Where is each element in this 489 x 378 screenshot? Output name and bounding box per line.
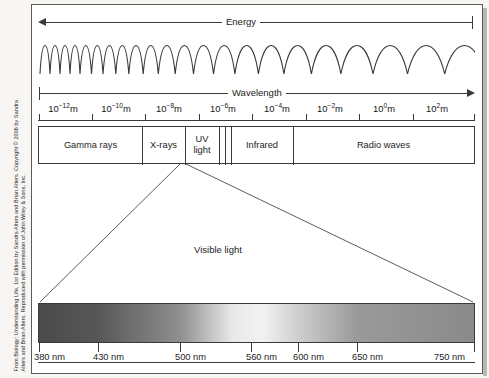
credit-line-1: From Biology: Understanding Life, 1st Ed… xyxy=(13,5,20,371)
band-tick-5 xyxy=(306,114,307,121)
band-divider-1 xyxy=(185,127,186,165)
nm-label-4: 600 nm xyxy=(293,352,324,362)
exponent-3: −6 xyxy=(221,102,229,109)
band-uv-light[interactable]: UVlight xyxy=(185,127,219,163)
wavelength-tick-label-1: 10−10m xyxy=(101,103,130,114)
exponent-2: −8 xyxy=(167,102,175,109)
wavelength-axis-start-cap xyxy=(39,87,40,100)
exponent-1: −10 xyxy=(112,102,123,109)
nm-label-6: 750 nm xyxy=(434,352,465,362)
band-tick-4 xyxy=(252,114,253,121)
wavelength-axis-label: Wavelength xyxy=(228,87,286,98)
exponent-5: −2 xyxy=(328,102,336,109)
exponent-4: −4 xyxy=(275,102,283,109)
band-x-rays[interactable]: X-rays xyxy=(142,127,185,163)
band-tick-8 xyxy=(474,114,475,121)
band-infrared[interactable]: Infrared xyxy=(231,127,293,163)
energy-arrow-left-icon xyxy=(38,18,46,26)
figure-credit: From Biology: Understanding Life, 1st Ed… xyxy=(13,5,28,371)
wavelength-tick-label-6: 100m xyxy=(373,103,395,114)
visible-spectrum-bar[interactable] xyxy=(38,303,475,343)
wavelength-tick-label-7: 102m xyxy=(426,103,448,114)
spectrum-band-row: Gamma rays X-rays UVlight Infrared Radio… xyxy=(38,126,475,164)
nm-label-5: 650 nm xyxy=(352,352,383,362)
nm-tick-1 xyxy=(98,343,99,352)
credit-line-2: Alters and Brian Alters. Reproduced with… xyxy=(20,5,27,371)
electromagnetic-spectrum-figure: From Biology: Understanding Life, 1st Ed… xyxy=(0,0,489,378)
nm-label-3: 560 nm xyxy=(246,352,277,362)
band-divider-4 xyxy=(231,127,232,165)
nm-tick-5 xyxy=(357,343,358,352)
band-tick-baseline xyxy=(38,120,475,121)
nm-tick-0 xyxy=(39,343,40,352)
nm-tick-3 xyxy=(251,343,252,352)
spectrum-gradient xyxy=(39,304,474,342)
band-divider-2 xyxy=(219,127,220,165)
wavelength-tick-label-5: 10−2m xyxy=(317,103,343,114)
band-divider-3 xyxy=(225,127,226,165)
wavelength-tick-label-4: 10−4m xyxy=(264,103,290,114)
wavelength-tick-label-2: 10−8m xyxy=(156,103,182,114)
band-tick-2 xyxy=(145,114,146,121)
band-divider-5 xyxy=(293,127,294,165)
wavelength-tick-label-0: 10−12m xyxy=(48,103,77,114)
nm-axis-line xyxy=(38,362,475,363)
exponent-7: 2 xyxy=(436,102,440,109)
band-tick-6 xyxy=(359,114,360,121)
energy-axis-end-cap xyxy=(472,16,473,29)
band-tick-7 xyxy=(413,114,414,121)
nm-label-1: 430 nm xyxy=(93,352,124,362)
nm-tick-2 xyxy=(180,343,181,352)
energy-axis-label: Energy xyxy=(222,16,260,27)
band-tick-1 xyxy=(92,114,93,121)
nm-label-2: 500 nm xyxy=(175,352,206,362)
band-tick-3 xyxy=(199,114,200,121)
nm-label-0: 380 nm xyxy=(34,352,65,362)
nm-tick-4 xyxy=(298,343,299,352)
visible-light-label: Visible light xyxy=(194,244,242,255)
band-gamma-rays[interactable]: Gamma rays xyxy=(39,127,142,163)
visible-light-funnel xyxy=(38,164,475,304)
exponent-6: 0 xyxy=(383,102,387,109)
band-radio-waves[interactable]: Radio waves xyxy=(293,127,474,163)
nm-tick-6 xyxy=(474,343,475,352)
wavelength-arrow-right-icon xyxy=(467,89,475,97)
waveform-illustration xyxy=(38,30,475,82)
exponent-0: −12 xyxy=(59,102,70,109)
band-divider-0 xyxy=(142,127,143,165)
band-tick-0 xyxy=(39,114,40,121)
page-shadow xyxy=(483,8,487,376)
wavelength-tick-label-3: 10−6m xyxy=(210,103,236,114)
